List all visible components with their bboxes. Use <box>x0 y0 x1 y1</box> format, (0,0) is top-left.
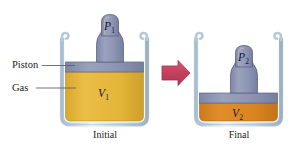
pressure-subscript-initial: 1 <box>111 26 115 35</box>
volume-label-initial: V1 <box>98 88 109 100</box>
piston-slab-initial <box>66 62 144 72</box>
gas-annotation-label: Gas <box>12 83 28 94</box>
pressure-label-final: P2 <box>238 52 249 64</box>
caption-initial: Initial <box>75 130 135 140</box>
piston-annotation-label: Piston <box>12 60 38 71</box>
process-arrow-icon <box>162 61 190 86</box>
caption-final: Final <box>209 130 269 140</box>
pressure-label-initial: P1 <box>104 21 115 33</box>
pressure-subscript-final: 2 <box>245 57 249 66</box>
volume-label-final: V2 <box>232 108 243 120</box>
piston-slab-final <box>200 93 278 103</box>
volume-symbol-initial: V <box>98 87 105 99</box>
process-arrow-group <box>162 61 190 86</box>
volume-subscript-initial: 1 <box>105 93 109 102</box>
physics-diagram-gas-compression: Piston Gas P1 V1 P2 V2 Initial Final <box>0 0 297 151</box>
volume-subscript-final: 2 <box>239 113 243 122</box>
volume-symbol-final: V <box>232 107 239 119</box>
pressure-symbol-final: P <box>238 51 245 63</box>
pressure-symbol-initial: P <box>104 20 111 32</box>
diagram-canvas <box>0 0 297 151</box>
